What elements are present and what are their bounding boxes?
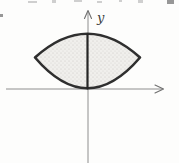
- scan-artifact: [0, 14, 3, 17]
- coordinate-diagram: y: [0, 0, 179, 163]
- scan-artifact: [119, 0, 122, 2]
- scan-artifact: [28, 1, 37, 3]
- scan-artifact: [97, 1, 102, 3]
- scan-artifact: [74, 0, 82, 2]
- scan-artifact: [167, 0, 174, 4]
- y-axis-label: y: [96, 10, 105, 25]
- scan-artifact: [52, 0, 56, 3]
- scan-artifacts: [0, 0, 174, 17]
- figure-page: y: [0, 0, 179, 163]
- scan-artifact: [138, 0, 143, 3]
